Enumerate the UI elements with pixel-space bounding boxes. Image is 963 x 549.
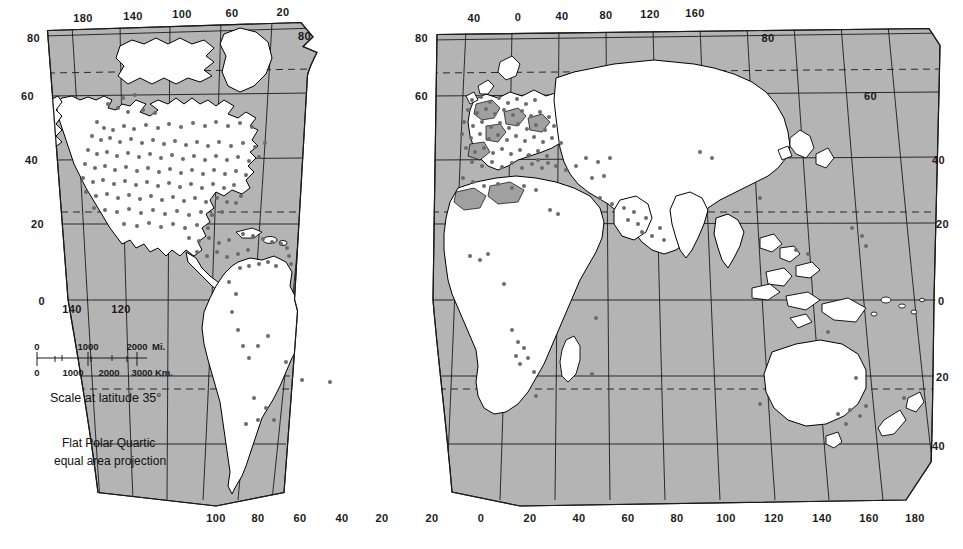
- scale-mi-unit: Mi.: [152, 341, 165, 352]
- left-top-lon-1: 140: [123, 10, 143, 22]
- left-lat-80: 80: [27, 32, 40, 44]
- left-bot-lon-0: 100: [206, 512, 226, 524]
- left-bot-lon-1: 80: [251, 512, 264, 524]
- scale-km-tick-0: 0: [34, 367, 39, 378]
- left-lat-0: 0: [38, 295, 45, 307]
- scale-km-tick-1: 1000: [62, 367, 83, 378]
- right-bot-lon-6: 100: [716, 512, 736, 524]
- right-bot-lon-2: 20: [523, 512, 536, 524]
- right-bot-lon-0: 20: [425, 512, 438, 524]
- right-top-lon-0: 40: [467, 12, 480, 24]
- right-left-lat-60: 60: [415, 90, 428, 102]
- scale-km-tick-3: 3000: [131, 367, 152, 378]
- scale-mi-tick-2: 2000: [126, 341, 147, 352]
- right-lat-0: 0: [938, 295, 945, 307]
- map-canvas: 180 140 100 60 20 80 60 40 20 0 80 140 1…: [0, 0, 963, 549]
- right-bot-lon-5: 80: [670, 512, 683, 524]
- right-top-lon-4: 120: [640, 8, 660, 20]
- left-lat-40: 40: [25, 154, 38, 166]
- left-top-lon-4: 20: [276, 6, 289, 18]
- scale-mi-tick-1: 1000: [77, 341, 98, 352]
- left-top-lon-0: 180: [73, 12, 93, 24]
- projection-note-line-2: equal area projection: [54, 454, 166, 468]
- left-top-lon-3: 60: [225, 7, 238, 19]
- right-left-lat-80: 80: [415, 32, 428, 44]
- scale-caption: Scale at latitude 35°: [50, 391, 161, 405]
- left-right-lat-80: 80: [298, 30, 311, 42]
- right-lat-40s: 40: [932, 440, 945, 452]
- right-bot-lon-4: 60: [621, 512, 634, 524]
- right-top-lon-2: 40: [555, 10, 568, 22]
- scale-km-tick-2: 2000: [98, 367, 119, 378]
- right-bot-lon-7: 120: [764, 512, 784, 524]
- left-lat-20: 20: [31, 218, 44, 230]
- scale-km-unit: Km.: [155, 367, 173, 378]
- right-bot-lon-10: 180: [905, 512, 925, 524]
- world-distribution-map: 180 140 100 60 20 80 60 40 20 0 80 140 1…: [0, 0, 963, 549]
- left-eq-lon-120: 120: [111, 303, 131, 315]
- projection-note-line-1: Flat Polar Quartic: [62, 436, 155, 450]
- left-bot-lon-3: 40: [335, 512, 348, 524]
- right-top-lon-3: 80: [599, 9, 612, 21]
- scale-mi-tick-0: 0: [34, 341, 39, 352]
- canadian-arctic-landmass: [116, 38, 214, 84]
- right-bot-lon-8: 140: [812, 512, 832, 524]
- right-top-lat-80: 80: [761, 32, 774, 44]
- right-lat-60: 60: [864, 90, 877, 102]
- right-lat-40: 40: [932, 154, 945, 166]
- right-bot-lon-3: 40: [572, 512, 585, 524]
- right-top-lon-1: 0: [515, 11, 522, 23]
- left-top-lon-2: 100: [172, 8, 192, 20]
- right-top-lon-5: 160: [685, 7, 705, 19]
- right-lat-20s: 20: [936, 371, 949, 383]
- right-lat-20n: 20: [936, 218, 949, 230]
- left-bot-lon-4: 20: [375, 512, 388, 524]
- left-lat-60: 60: [21, 90, 34, 102]
- right-bot-lon-9: 160: [859, 512, 879, 524]
- left-eq-lon-140: 140: [62, 303, 82, 315]
- right-bot-lon-1: 0: [478, 512, 485, 524]
- left-bot-lon-2: 60: [293, 512, 306, 524]
